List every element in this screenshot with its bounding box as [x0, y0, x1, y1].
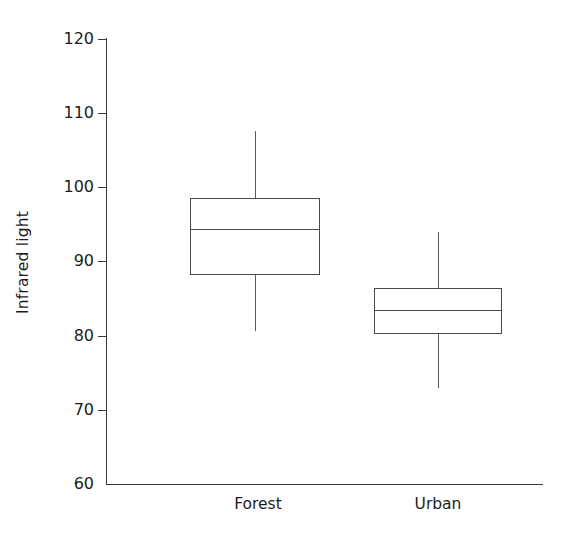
y-tick-text: 60 [50, 476, 94, 492]
y-tick-text: 120 [50, 31, 94, 47]
y-tick-label-100: 100 [50, 179, 94, 195]
y-axis-line [106, 38, 107, 485]
y-tick-label-60: 60 [50, 476, 94, 492]
y-tick-text: 90 [50, 253, 94, 269]
y-tick-text: 80 [50, 328, 94, 344]
y-tick-text: 110 [50, 105, 94, 121]
box-plot-figure: Infrared light 120 110 100 90 80 70 60 F… [0, 0, 568, 535]
y-tick-label-90: 90 [50, 253, 94, 269]
y-tick-label-120: 120 [50, 31, 94, 47]
y-axis-title-label: Infrared light [14, 211, 32, 324]
urban-box [374, 288, 502, 334]
y-axis-title: Infrared light [0, 0, 46, 535]
x-category-label-urban: Urban [368, 495, 508, 513]
y-tick-label-110: 110 [50, 105, 94, 121]
forest-median-line [190, 229, 320, 230]
forest-box [190, 198, 320, 275]
x-category-label-forest: Forest [188, 495, 328, 513]
urban-median-line [374, 310, 502, 311]
forest-lower-whisker [255, 275, 256, 331]
y-tick-text: 100 [50, 179, 94, 195]
urban-upper-whisker [438, 232, 439, 288]
y-tick-label-70: 70 [50, 402, 94, 418]
x-axis-line [106, 484, 543, 485]
y-tick-text: 70 [50, 402, 94, 418]
forest-upper-whisker [255, 131, 256, 198]
urban-lower-whisker [438, 334, 439, 388]
y-tick-label-80: 80 [50, 328, 94, 344]
